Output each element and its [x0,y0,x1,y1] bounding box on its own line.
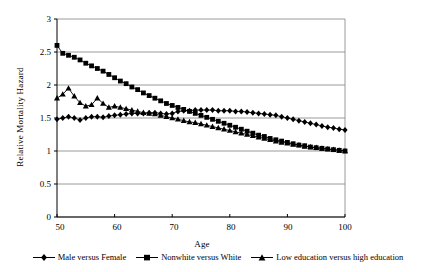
y-tick-label-0-5: 0.5 [25,179,51,189]
data-point-marker [129,85,134,90]
data-point-marker [72,115,77,121]
data-point-marker [89,63,94,68]
square-marker-icon [136,253,158,262]
data-point-marker [204,107,209,113]
data-point-marker [124,81,129,86]
data-point-marker [54,116,59,122]
data-point-marker [54,95,60,100]
data-point-marker [193,111,198,116]
data-point-marker [89,114,94,120]
data-point-marker [100,114,105,120]
x-tick-label-90: 90 [273,222,303,232]
data-point-marker [153,96,158,101]
data-point-marker [94,95,100,100]
y-tick-label-2: 2 [25,80,51,90]
data-point-marker [221,108,226,114]
data-point-marker [118,79,123,84]
data-point-marker [101,69,106,74]
data-point-marker [319,123,324,129]
data-point-marker [187,109,192,114]
data-point-marker [158,98,163,103]
data-point-marker [124,111,129,117]
series-0 [54,107,347,133]
data-point-marker [325,124,330,130]
data-point-marker [112,112,117,118]
legend-item-male-versus-female: Male versus Female [33,252,126,262]
data-point-marker [170,103,175,108]
data-point-marker [112,103,118,108]
data-point-marker [331,125,336,131]
data-point-marker [181,107,186,112]
legend-label-low-education-versus-high-education: Low education versus high education [276,252,403,262]
data-point-marker [227,108,232,114]
legend-label-nonwhite-versus-white: Nonwhite versus White [161,252,241,262]
y-tick-label-0: 0 [25,212,51,222]
data-point-marker [72,55,77,60]
data-point-marker [291,116,296,122]
data-point-marker [66,114,71,120]
x-tick-label-100: 100 [330,222,360,232]
legend-item-nonwhite-versus-white: Nonwhite versus White [136,252,241,262]
data-point-marker [118,112,123,118]
data-point-marker [256,110,261,116]
series-2 [54,85,348,153]
data-point-marker [308,120,313,126]
data-point-marker [95,66,100,71]
data-point-marker [78,58,83,63]
data-point-marker [55,43,60,48]
data-point-marker [199,113,204,118]
data-point-marker [285,115,290,121]
data-point-marker [244,109,249,115]
data-point-marker [342,127,347,133]
data-point-marker [239,108,244,114]
data-point-marker [66,85,72,90]
series-line [57,45,345,151]
data-point-marker [106,72,111,77]
data-point-marker [216,119,221,124]
relative-mortality-hazard-chart: Relative Mortality Hazard Age 3 2.5 2 1.… [0,0,436,272]
data-point-marker [314,122,319,128]
y-tick-label-3: 3 [25,14,51,24]
x-tick-label-80: 80 [216,222,246,232]
x-tick-label-70: 70 [159,222,189,232]
x-axis-title: Age [172,239,232,249]
data-point-marker [268,112,273,118]
data-point-marker [222,121,227,126]
data-point-marker [210,107,215,113]
data-point-marker [60,51,65,56]
legend-label-male-versus-female: Male versus Female [58,252,126,262]
data-point-marker [279,114,284,120]
data-point-marker [83,61,88,66]
data-point-marker [198,107,203,113]
diamond-marker-icon [33,253,55,262]
data-point-marker [216,108,221,114]
legend-item-low-education-versus-high-education: Low education versus high education [251,252,403,262]
data-point-marker [66,53,71,58]
data-point-marker [135,87,140,92]
y-tick-label-2-5: 2.5 [25,47,51,57]
data-point-marker [337,126,342,132]
data-point-marker [233,108,238,114]
data-point-marker [112,75,117,80]
y-axis-title: Relative Mortality Hazard [15,37,25,197]
data-point-marker [262,111,267,117]
data-point-marker [210,117,215,122]
data-point-marker [95,114,100,120]
data-point-marker [83,115,88,121]
data-point-marker [302,119,307,125]
data-point-marker [147,93,152,98]
data-point-marker [250,110,255,116]
data-point-marker [296,118,301,124]
data-point-marker [227,123,232,128]
triangle-marker-icon [251,253,273,262]
data-point-marker [204,115,209,120]
data-point-marker [141,91,146,96]
data-point-marker [176,105,181,110]
y-tick-label-1: 1 [25,146,51,156]
chart-legend: Male versus Female Nonwhite versus White… [0,252,436,262]
x-tick-label-50: 50 [45,222,75,232]
y-tick-label-1-5: 1.5 [25,113,51,123]
data-point-marker [273,112,278,118]
x-tick-label-60: 60 [102,222,132,232]
data-point-marker [60,115,65,121]
